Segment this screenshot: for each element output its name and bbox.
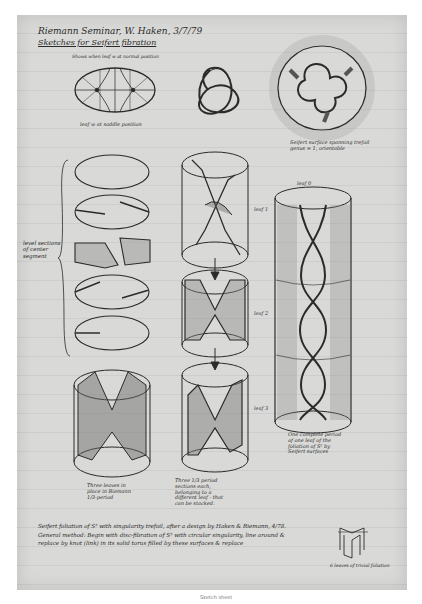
ellipse-caption: leaf w at saddle position bbox=[80, 122, 142, 128]
three-leaves-caption: Three leaves in place in Riemann 1/3-per… bbox=[87, 483, 137, 500]
three-leaves-cylinder bbox=[74, 370, 150, 477]
sketch-drawings bbox=[0, 0, 422, 604]
figure-caption: Sketch sheet bbox=[200, 594, 232, 599]
seifert-surface-diagram bbox=[274, 40, 370, 136]
bottom-notes: Seifert foliation of S³ with singularity… bbox=[38, 522, 288, 548]
leaf-top-label: leaf 0 bbox=[297, 181, 311, 187]
ellipse-top-note: Shows when leaf w at normal position bbox=[72, 54, 159, 59]
page-title: Riemann Seminar, W. Haken, 3/7/79 bbox=[38, 26, 202, 36]
trivial-foliation-caption: 6 leaves of trivial foliation bbox=[330, 563, 390, 568]
saddle-ellipse-diagram bbox=[75, 68, 155, 112]
level-sections-column bbox=[58, 155, 150, 356]
side-leaf-label: leaf 2 bbox=[254, 310, 268, 316]
side-leaf-label: leaf 1 bbox=[254, 206, 268, 212]
stacked-caption: Three 1/3 period sections each, belongin… bbox=[175, 478, 225, 507]
seifert-caption: Seifert surface spanning trefoil genus =… bbox=[290, 140, 370, 152]
complete-period-cylinder bbox=[275, 187, 351, 433]
page-subtitle: Sketches for Seifert fibration bbox=[38, 38, 156, 47]
trivial-foliation-sketch bbox=[338, 528, 368, 558]
trefoil-knot bbox=[199, 68, 238, 114]
complete-period-caption: One complete period of one leaf of the f… bbox=[288, 432, 343, 455]
level-sections-label: level sections of center segment bbox=[23, 240, 63, 259]
stacked-sections-column bbox=[182, 152, 248, 472]
side-leaf-label: leaf 3 bbox=[254, 405, 268, 411]
